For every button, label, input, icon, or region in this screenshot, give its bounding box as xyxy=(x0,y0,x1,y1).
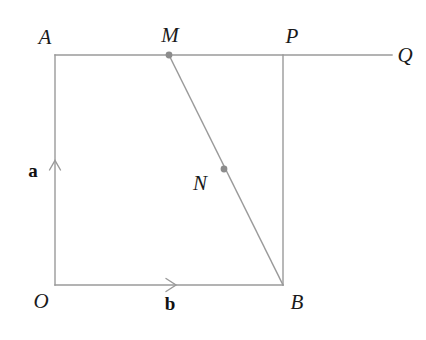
figure-canvas xyxy=(0,0,426,340)
point-label-M: M xyxy=(161,25,179,46)
vector-label-b: b xyxy=(165,294,176,313)
point-label-Q: Q xyxy=(397,45,412,66)
point-label-A: A xyxy=(39,27,52,48)
point-label-P: P xyxy=(286,26,299,47)
vector-label-a: a xyxy=(28,161,38,180)
geometry-diagram: A M P Q N O B a b xyxy=(0,0,426,340)
point-label-B: B xyxy=(291,292,304,313)
point-M-dot xyxy=(166,52,173,59)
point-label-O: O xyxy=(33,291,48,312)
point-N-dot xyxy=(221,166,228,173)
point-label-N: N xyxy=(193,173,207,194)
